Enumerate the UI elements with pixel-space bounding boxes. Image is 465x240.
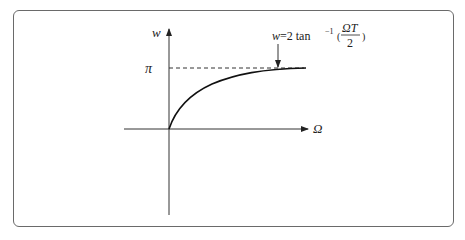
bilinear-warping-diagram: w Ω π w=2 tan −1 ( ΩT 2 ): [0, 0, 465, 240]
formula-open-paren: (: [337, 31, 341, 43]
warping-curve: [169, 68, 306, 129]
y-axis-label: w: [152, 25, 161, 40]
formula-denominator: 2: [347, 36, 353, 50]
formula-exponent: −1: [325, 27, 334, 36]
formula-lhs: w=2 tan: [272, 29, 310, 43]
pi-label: π: [145, 61, 153, 76]
curve-formula: w=2 tan −1 ( ΩT 2 ): [272, 21, 365, 50]
formula-close-paren: ): [362, 31, 365, 43]
formula-numerator: ΩT: [342, 21, 359, 35]
x-axis-label: Ω: [313, 121, 322, 136]
